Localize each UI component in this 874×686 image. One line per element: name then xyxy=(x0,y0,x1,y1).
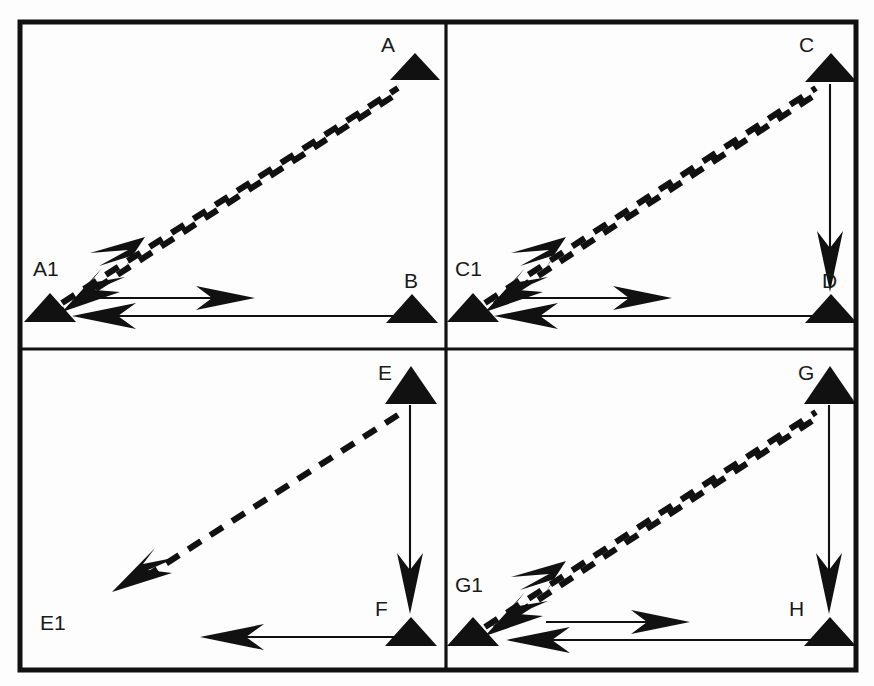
node-label-a: A xyxy=(381,33,395,56)
node-label-c1: C1 xyxy=(455,257,482,280)
node-label-g1: G1 xyxy=(455,573,483,596)
node-c[interactable] xyxy=(805,53,857,82)
triangle-marker-a xyxy=(390,53,440,80)
node-a[interactable] xyxy=(390,53,440,80)
edge-c-c1-dashed xyxy=(483,88,816,312)
node-label-h: H xyxy=(789,597,804,620)
edge-c-d-down xyxy=(817,84,843,292)
node-e[interactable] xyxy=(385,366,437,404)
node-b[interactable] xyxy=(386,294,438,323)
node-label-g: G xyxy=(798,361,814,384)
edge-g-g1-dashed xyxy=(483,412,816,636)
edge-f-e1-left xyxy=(200,624,398,650)
panel-bottom-left: E E1 F xyxy=(40,361,437,650)
edge-h-g1-left xyxy=(506,627,816,653)
node-label-a1: A1 xyxy=(33,257,59,280)
edge-e-f-down xyxy=(397,405,423,614)
panel-bottom-right: G G1 H xyxy=(447,361,856,653)
triangle-marker-e xyxy=(385,366,437,404)
arrowhead-down-left xyxy=(112,548,178,592)
panel-top-left: A A1 B xyxy=(24,33,440,329)
node-d[interactable] xyxy=(805,294,857,323)
four-panel-diagram: A A1 B xyxy=(0,0,874,686)
edge-g-h-down xyxy=(816,405,842,614)
triangle-marker-c xyxy=(805,53,857,82)
edge-e-e1-dashed xyxy=(112,415,398,592)
node-label-f: F xyxy=(375,597,388,620)
node-label-e1: E1 xyxy=(40,611,66,634)
node-label-b: B xyxy=(404,269,418,292)
edge-d-c1-left xyxy=(494,303,818,329)
triangle-marker-f xyxy=(385,617,437,646)
node-label-c: C xyxy=(799,33,814,56)
triangle-marker-d xyxy=(805,294,857,323)
edge-b-a1-left xyxy=(72,303,400,329)
edge-g1-h-right xyxy=(546,610,690,634)
arrowhead-down-left xyxy=(62,268,125,312)
node-label-e: E xyxy=(378,361,392,384)
diagram-canvas: A A1 B xyxy=(0,0,874,686)
triangle-marker-h xyxy=(804,617,856,646)
node-h[interactable] xyxy=(804,617,856,646)
panel-top-right: C C1 D xyxy=(447,33,857,329)
node-f[interactable] xyxy=(385,617,437,646)
triangle-marker-b xyxy=(386,294,438,323)
edge-a-a1-dashed xyxy=(60,88,398,312)
node-label-d: D xyxy=(822,269,837,292)
